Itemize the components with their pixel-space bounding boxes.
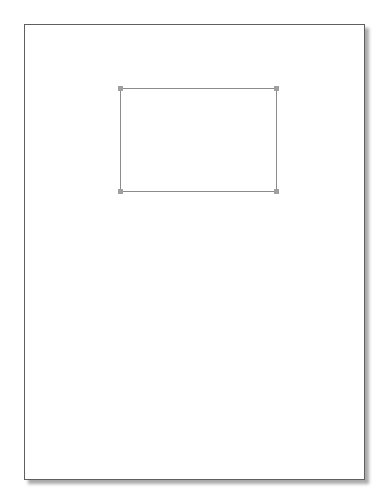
resize-handle-top-right[interactable] [274, 86, 279, 91]
resize-handle-top-left[interactable] [118, 86, 123, 91]
resize-handle-bottom-right[interactable] [274, 189, 279, 194]
resize-handle-bottom-left[interactable] [118, 189, 123, 194]
drawing-workspace [0, 0, 383, 503]
rectangle-shape[interactable] [120, 88, 277, 192]
